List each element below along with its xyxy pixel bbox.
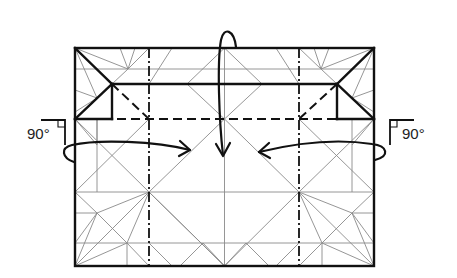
top-fold-arrow bbox=[216, 32, 236, 156]
left-angle-marker: 90° bbox=[27, 120, 65, 145]
right-angle-label: 90° bbox=[402, 125, 425, 142]
mountain-folds bbox=[149, 48, 299, 266]
reference-creases bbox=[75, 48, 374, 266]
left-angle-label: 90° bbox=[27, 125, 50, 142]
right-angle-marker: 90° bbox=[390, 120, 425, 145]
origami-diagram: 90° 90° bbox=[0, 0, 457, 278]
right-fold-arrow bbox=[259, 142, 385, 160]
left-fold-arrow bbox=[64, 141, 190, 162]
